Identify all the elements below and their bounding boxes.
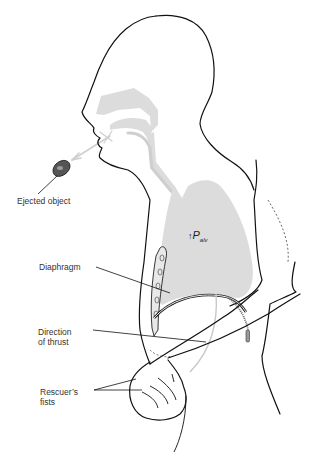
palv-symbol: P	[193, 229, 200, 241]
palv-subscript: alv	[200, 237, 208, 243]
diaphragm	[154, 295, 250, 342]
rescuers-fists-line1: Rescuer’s	[40, 387, 78, 397]
rescuers-fists-line2: fists	[40, 397, 78, 407]
ejected-object	[53, 160, 70, 176]
thrust-arrow	[190, 294, 216, 372]
direction-of-thrust-label: Direction of thrust	[38, 327, 72, 347]
airway-shading	[96, 88, 253, 305]
airflow-arrow	[72, 131, 112, 160]
alveolar-pressure-label: ↑Palv	[188, 229, 208, 243]
direction-of-thrust-line1: Direction	[38, 327, 72, 337]
diaphragm-label: Diaphragm	[39, 262, 81, 272]
rescuers-fists-label: Rescuer’s fists	[40, 387, 78, 407]
ejected-object-label: Ejected object	[17, 196, 70, 206]
direction-of-thrust-line2: of thrust	[38, 337, 72, 347]
heimlich-maneuver-illustration	[0, 0, 325, 452]
dashed-outline	[268, 200, 288, 262]
rescuers-fists	[130, 360, 186, 452]
